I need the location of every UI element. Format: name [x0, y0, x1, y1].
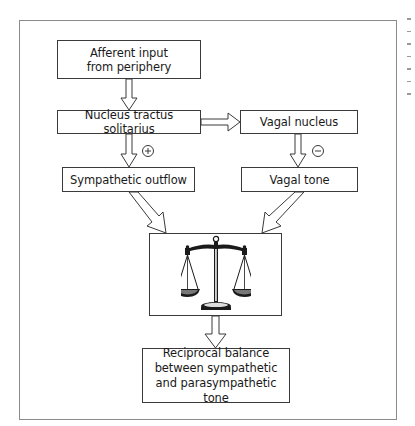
plus-sign-icon	[143, 146, 154, 157]
arrow-nts-to-vagal-nucleus	[201, 113, 240, 131]
arrow-balance-to-result	[205, 316, 226, 348]
arrow-sympathetic-to-balance	[129, 192, 166, 233]
minus-sign-icon	[313, 146, 324, 157]
arrow-vagal-nucleus-to-vagal-tone	[290, 134, 306, 167]
arrows-layer	[0, 0, 415, 426]
arrow-afferent-to-nts	[121, 79, 137, 110]
arrow-vagal-tone-to-balance	[262, 192, 304, 233]
arrow-nts-to-sympathetic	[121, 134, 137, 167]
